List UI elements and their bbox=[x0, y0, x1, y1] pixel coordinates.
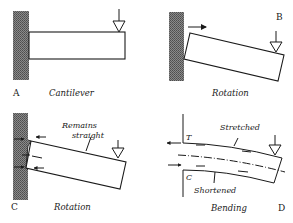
stretch-arrow-2 bbox=[242, 151, 251, 152]
tension-mark: T bbox=[186, 133, 192, 142]
panel-b: B Rotation bbox=[169, 12, 284, 98]
wall-a bbox=[13, 11, 29, 80]
load-arrow-d bbox=[269, 135, 281, 155]
neutral-axis-d bbox=[178, 155, 285, 172]
caption-c: Rotation bbox=[53, 202, 91, 212]
compression-mark: C bbox=[186, 173, 192, 182]
caption-a: Cantilever bbox=[49, 88, 95, 98]
beam-b bbox=[184, 33, 284, 81]
annotation-remains: Remains bbox=[61, 121, 97, 130]
beam-c bbox=[26, 141, 126, 189]
panel-letter-a: A bbox=[12, 88, 20, 98]
stretched-leader bbox=[234, 138, 238, 146]
load-arrow-c bbox=[112, 140, 124, 158]
load-arrow-a bbox=[113, 9, 125, 32]
panel-c: Remains straight C Rotation bbox=[11, 113, 126, 212]
caption-b: Rotation bbox=[211, 88, 249, 98]
panel-letter-b: B bbox=[276, 12, 283, 22]
panel-letter-d: D bbox=[278, 203, 285, 213]
panel-letter-c: C bbox=[11, 202, 18, 212]
wall-c bbox=[13, 113, 28, 200]
beam-diagram: A Cantilever B Rotation Remains straight… bbox=[0, 0, 293, 223]
panel-d: Stretched Shortened T C D Bending bbox=[167, 114, 285, 213]
wall-b bbox=[169, 12, 184, 81]
shorten-arrow-2 bbox=[238, 171, 248, 172]
label-stretched: Stretched bbox=[220, 123, 260, 132]
shortened-leader bbox=[214, 172, 215, 183]
panel-a: A Cantilever bbox=[12, 9, 125, 98]
beam-a bbox=[29, 32, 125, 59]
label-shortened: Shortened bbox=[194, 186, 236, 195]
beam-d bbox=[183, 143, 282, 183]
caption-d: Bending bbox=[210, 203, 247, 213]
annotation-straight: straight bbox=[72, 131, 105, 140]
load-arrow-b bbox=[270, 31, 282, 52]
